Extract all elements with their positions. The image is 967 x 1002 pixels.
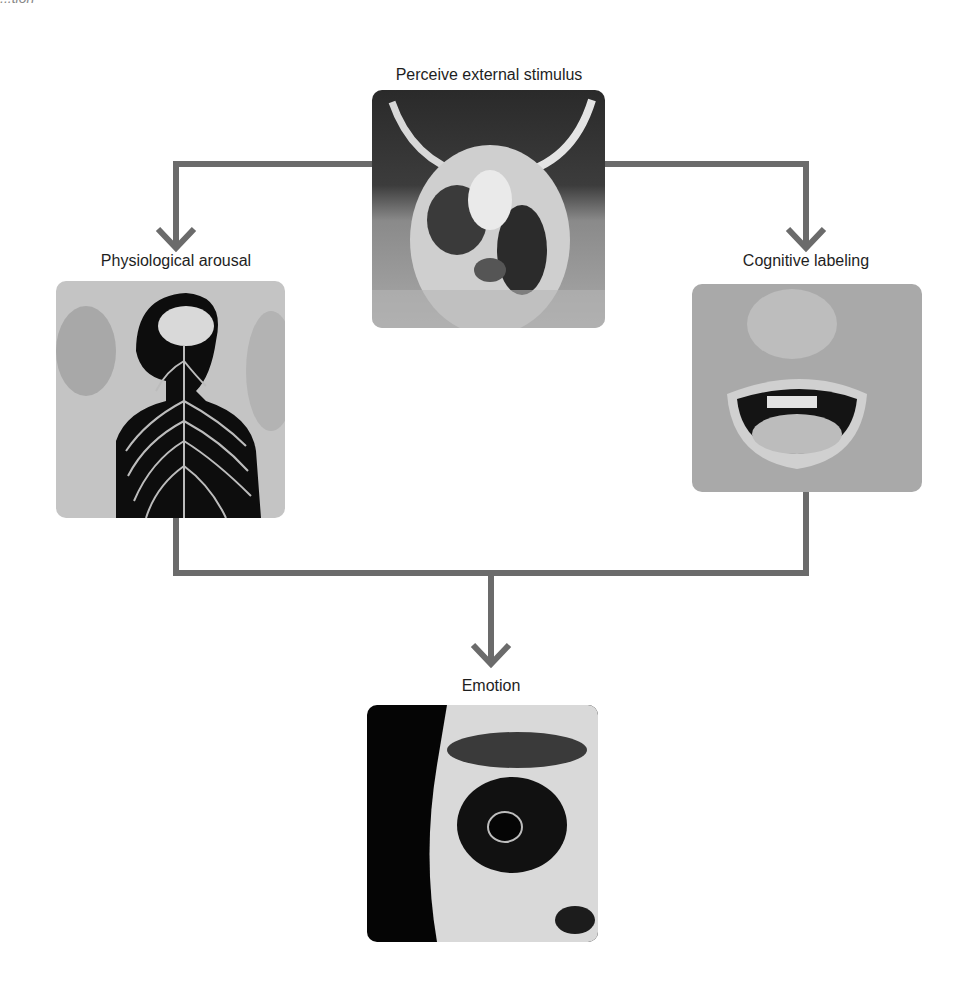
connector-stimulus-to-labeling <box>605 164 806 246</box>
fearful-eye-icon <box>367 705 598 942</box>
arousal-image <box>56 281 285 518</box>
emotion-image <box>367 705 598 942</box>
stimulus-image <box>372 90 605 328</box>
connector-stimulus-to-arousal <box>176 164 372 246</box>
labeling-image <box>692 284 922 492</box>
node-label-stimulus: Perceive external stimulus <box>396 66 583 84</box>
node-label-arousal: Physiological arousal <box>101 252 251 270</box>
longhorn-steer-icon <box>372 90 605 328</box>
node-label-labeling: Cognitive labeling <box>743 252 869 270</box>
node-label-emotion: Emotion <box>462 677 521 695</box>
screaming-mouth-icon <box>692 284 922 492</box>
nervous-system-icon <box>56 281 285 518</box>
